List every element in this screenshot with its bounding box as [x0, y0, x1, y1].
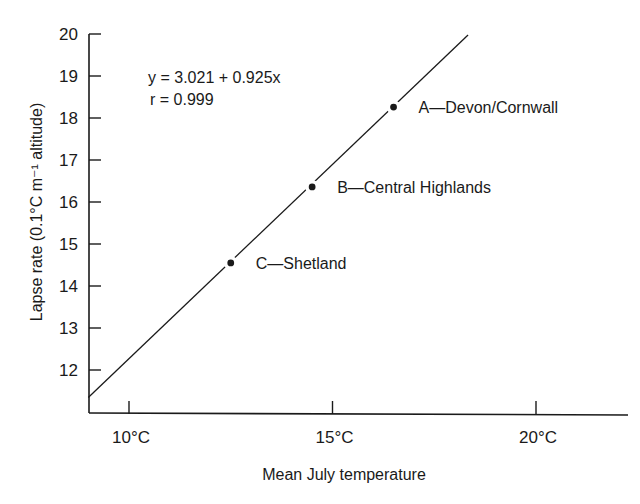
data-point-a — [390, 104, 397, 111]
point-label-c: C—Shetland — [256, 255, 347, 272]
lapse-rate-chart: 121314151617181920 10°C15°C20°C A—Devon/… — [0, 0, 640, 504]
y-tick-label: 12 — [59, 361, 78, 380]
y-tick-label: 17 — [59, 151, 78, 170]
regression-line — [88, 35, 468, 397]
y-axis-title: Lapse rate (0.1°C m⁻¹ altitude) — [28, 103, 45, 322]
y-tick-label: 13 — [59, 319, 78, 338]
chart-svg: 121314151617181920 10°C15°C20°C A—Devon/… — [0, 0, 640, 504]
correlation-annotation: r = 0.999 — [150, 91, 214, 108]
y-tick-label: 14 — [59, 277, 78, 296]
x-tick-label: 15°C — [316, 428, 354, 447]
x-ticks: 10°C15°C20°C — [112, 401, 557, 447]
x-tick-label: 10°C — [112, 428, 150, 447]
y-tick-label: 15 — [59, 235, 78, 254]
axes: 121314151617181920 10°C15°C20°C — [59, 25, 628, 447]
y-tick-label: 20 — [59, 25, 78, 44]
equation-annotation: y = 3.021 + 0.925x — [148, 69, 281, 86]
y-tick-label: 18 — [59, 109, 78, 128]
point-label-b: B—Central Highlands — [337, 179, 491, 196]
data-points: A—Devon/CornwallB—Central HighlandsC—She… — [224, 99, 558, 272]
x-tick-label: 20°C — [519, 428, 557, 447]
y-tick-label: 16 — [59, 193, 78, 212]
x-axis-title: Mean July temperature — [262, 466, 426, 483]
y-tick-label: 19 — [59, 67, 78, 86]
x-axis — [89, 413, 628, 415]
y-ticks: 121314151617181920 — [59, 25, 101, 380]
data-point-c — [227, 260, 234, 267]
data-point-b — [309, 183, 316, 190]
point-label-a: A—Devon/Cornwall — [419, 99, 559, 116]
